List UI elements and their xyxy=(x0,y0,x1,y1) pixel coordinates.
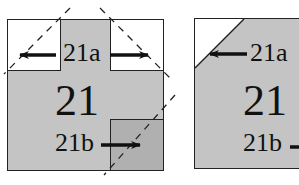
left-top-right-cutout xyxy=(110,19,164,71)
left-bottom-right-subbox xyxy=(110,119,164,171)
left-top-left-cutout xyxy=(7,19,61,71)
right-label-21b: 21b xyxy=(243,130,282,156)
right-label-21: 21 xyxy=(243,79,287,123)
left-label-21a: 21a xyxy=(63,40,101,66)
right-label-21a: 21a xyxy=(250,40,288,66)
left-label-21: 21 xyxy=(55,79,99,123)
left-label-21b: 21b xyxy=(55,130,94,156)
